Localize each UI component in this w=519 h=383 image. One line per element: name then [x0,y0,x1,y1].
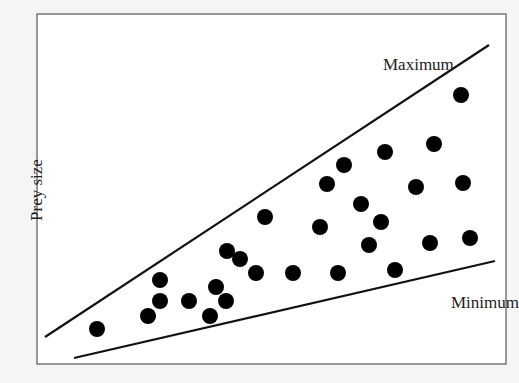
data-point [426,136,442,152]
data-point [387,262,403,278]
data-point [140,308,156,324]
scatter-plot: MaximumMinimum [0,0,519,383]
data-point [377,144,393,160]
minimum-label: Minimum [451,293,519,312]
data-point [285,265,301,281]
maximum-label: Maximum [383,55,454,74]
data-point [455,175,471,191]
data-point [152,293,168,309]
data-point [319,176,335,192]
data-point [232,251,248,267]
data-point [453,87,469,103]
data-point [89,321,105,337]
data-point [181,293,197,309]
data-point [361,237,377,253]
data-point [353,196,369,212]
y-axis-label: Prey size [27,159,47,221]
data-point [218,293,234,309]
data-point [257,209,273,225]
data-point [462,230,478,246]
data-point [408,179,424,195]
data-point [422,235,438,251]
data-point [248,265,264,281]
data-point [373,214,389,230]
data-point [330,265,346,281]
data-point [152,272,168,288]
data-point [312,219,328,235]
data-point [202,308,218,324]
data-point [208,279,224,295]
data-point [336,157,352,173]
